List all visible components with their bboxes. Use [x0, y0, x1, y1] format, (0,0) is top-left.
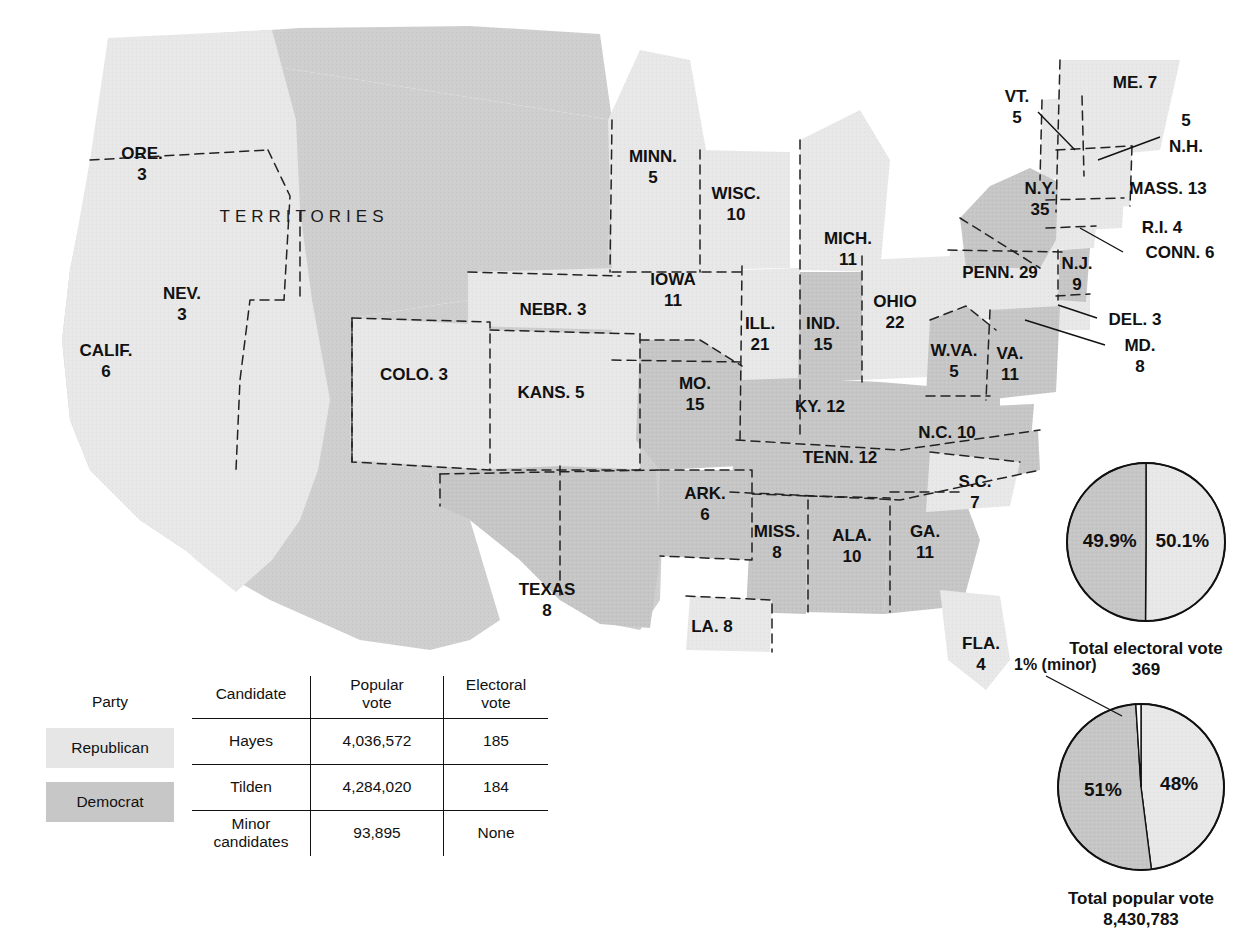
state-votes: 6: [101, 362, 110, 381]
state-name-votes: NEBR. 3: [519, 300, 586, 319]
popular-pie-caption: Total popular vote 8,430,783: [1046, 888, 1236, 931]
state-label-tenn: TENN. 12: [803, 448, 878, 467]
popular-pie-svg: 48%51%: [1046, 692, 1236, 882]
popular-caption-line1: Total popular vote: [1046, 888, 1236, 909]
state-votes: 11: [664, 291, 682, 310]
state-votes: 5: [648, 168, 657, 187]
state-name: IND.: [806, 314, 840, 333]
state-name: TEXAS: [519, 580, 576, 599]
row-popular-minor: 93,895: [311, 810, 444, 856]
state-name: W.VA.: [931, 341, 978, 360]
callout-name-votes: CONN. 6: [1146, 243, 1215, 262]
state-votes: 6: [700, 505, 709, 524]
pie-slice-label-democrat: 51%: [1084, 779, 1122, 800]
state-label-la: LA. 8: [691, 617, 733, 636]
callout-name: MD.: [1124, 336, 1155, 355]
state-name: IOWA: [650, 270, 695, 289]
callout-name-votes: R.I. 4: [1142, 218, 1183, 237]
callout-name-votes: DEL. 3: [1109, 310, 1162, 329]
state-votes: 22: [886, 313, 905, 332]
state-votes: 10: [727, 205, 746, 224]
state-label-penn: PENN. 29: [962, 263, 1038, 282]
election-map-figure: TERRITORIES ORE.3NEV.3CALIF.6COLO. 3NEBR…: [0, 0, 1258, 936]
state-votes: 15: [814, 335, 833, 354]
state-name: MICH.: [824, 229, 872, 248]
state-votes: 7: [970, 493, 979, 512]
state-votes: 8: [772, 543, 781, 562]
callout-name: N.H.: [1169, 137, 1203, 156]
state-name: OHIO: [873, 292, 916, 311]
state-name-votes: KANS. 5: [517, 383, 584, 402]
state-name: VA.: [996, 344, 1023, 363]
state-votes: 5: [949, 362, 958, 381]
state-label-nebr: NEBR. 3: [519, 300, 586, 319]
row-electoral-minor: None: [444, 810, 549, 856]
results-header-row: Candidate Popular vote Electoral vote: [192, 676, 548, 718]
popular-vote-pie: 48%51% Total popular vote 8,430,783: [1046, 692, 1236, 931]
legend-swatch-democrat: Democrat: [46, 782, 174, 822]
state-name: NEV.: [163, 284, 201, 303]
legend-table: Party Republican Democrat Candidate Popu…: [46, 676, 548, 868]
party-swatch-table: Party Republican Democrat: [46, 676, 174, 868]
state-votes: 3: [177, 305, 186, 324]
state-name: ILL.: [745, 314, 775, 333]
header-electoral-vote: Electoral vote: [444, 676, 549, 718]
state-name: MINN.: [629, 147, 677, 166]
state-name: S.C.: [958, 472, 991, 491]
electoral-pie-svg: 50.1%49.9%: [1056, 452, 1236, 632]
callout-mass: MASS. 13: [1129, 179, 1206, 198]
state-votes: 9: [1072, 275, 1081, 294]
state-name: CALIF.: [80, 341, 133, 360]
pie-slice-label-democrat: 49.9%: [1083, 530, 1137, 551]
state-name-votes: COLO. 3: [380, 365, 448, 384]
state-votes: 11: [916, 543, 934, 562]
row-popular-hayes: 4,036,572: [311, 718, 444, 764]
state-name-votes: N.C. 10: [918, 423, 976, 442]
state-votes: 21: [751, 335, 770, 354]
row-electoral-tilden: 184: [444, 764, 549, 810]
state-name: N.Y.: [1024, 179, 1055, 198]
pie-slice-label-republican: 48%: [1160, 773, 1198, 794]
state-name: ORE.: [121, 144, 163, 163]
state-name: ARK.: [684, 484, 726, 503]
state-votes: 11: [839, 250, 857, 269]
callout-name-votes: MASS. 13: [1129, 179, 1206, 198]
state-votes: 35: [1031, 200, 1050, 219]
state-name-votes: LA. 8: [691, 617, 733, 636]
party-column-header: Party: [46, 676, 174, 728]
state-name: GA.: [910, 522, 940, 541]
state-name: WISC.: [711, 184, 760, 203]
row-candidate-minor: Minor candidates: [192, 810, 311, 856]
row-popular-tilden: 4,284,020: [311, 764, 444, 810]
results-table: Candidate Popular vote Electoral vote Ha…: [192, 676, 548, 856]
table-row: Hayes 4,036,572 185: [192, 718, 548, 764]
table-row: Tilden 4,284,020 184: [192, 764, 548, 810]
row-candidate-tilden: Tilden: [192, 764, 311, 810]
state-votes: 8: [542, 601, 551, 620]
west-coast-silhouette: [66, 30, 330, 592]
state-votes: 11: [1001, 365, 1019, 384]
state-votes: 10: [843, 547, 862, 566]
legend-swatch-republican: Republican: [46, 728, 174, 768]
header-popular-vote: Popular vote: [311, 676, 444, 718]
callout-me: ME. 7: [1113, 73, 1157, 92]
row-electoral-hayes: 185: [444, 718, 549, 764]
state-label-colo: COLO. 3: [380, 365, 448, 384]
state-name: MISS.: [754, 522, 800, 541]
state-label-ky: KY. 12: [795, 397, 845, 416]
row-candidate-hayes: Hayes: [192, 718, 311, 764]
state-name-votes: KY. 12: [795, 397, 845, 416]
electoral-vote-pie: 50.1%49.9% Total electoral vote 369: [1056, 452, 1236, 681]
callout-ri: R.I. 4: [1142, 218, 1183, 237]
state-name: N.J.: [1061, 254, 1092, 273]
callout-name-votes: ME. 7: [1113, 73, 1157, 92]
state-name: ALA.: [832, 526, 872, 545]
header-candidate: Candidate: [192, 676, 311, 718]
callout-name: VT.: [1005, 87, 1030, 106]
state-name-votes: PENN. 29: [962, 263, 1038, 282]
pie-slice-label-republican: 50.1%: [1155, 530, 1209, 551]
state-name: FLA.: [962, 634, 1000, 653]
state-name-votes: TENN. 12: [803, 448, 878, 467]
callout-votes: 8: [1135, 357, 1144, 376]
state-label-nc: N.C. 10: [918, 423, 976, 442]
